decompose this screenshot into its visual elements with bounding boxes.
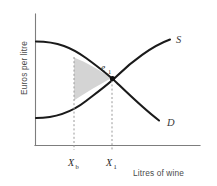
x-axis-title: Litres of wine	[133, 168, 184, 178]
demand-curve-label: D	[166, 117, 175, 128]
x-tick-label-x1: X	[105, 157, 113, 168]
y-axis-title: Euros per litre	[19, 41, 29, 95]
equilibrium-point-subscript: 1	[108, 68, 111, 75]
x-tick-subscript-xb: b	[76, 163, 79, 170]
chart-canvas: S D e 1 X b X 1 Euros per litre Litres o…	[0, 0, 217, 186]
x-tick-subscript-x1: 1	[114, 163, 117, 170]
equilibrium-point-dot	[110, 76, 115, 81]
supply-curve-label: S	[176, 34, 182, 45]
x-tick-label-xb: X	[67, 157, 75, 168]
equilibrium-point-label: e	[101, 63, 105, 73]
supply-demand-chart: S D e 1 X b X 1 Euros per litre Litres o…	[0, 0, 217, 186]
